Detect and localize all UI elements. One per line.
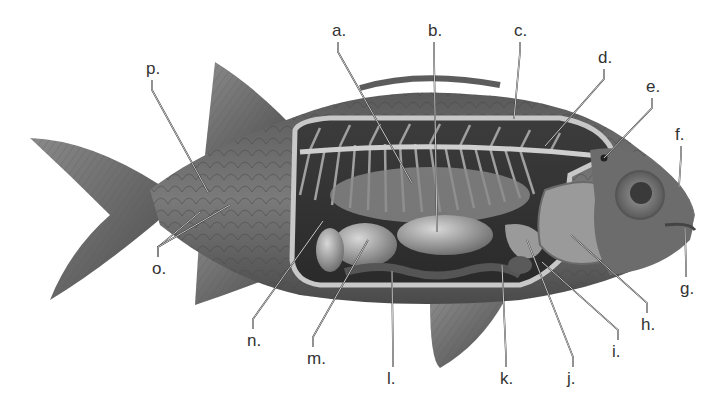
label-m: m.	[307, 349, 326, 368]
label-a: a.	[332, 21, 346, 40]
label-e: e.	[646, 77, 660, 96]
fish-anatomy-diagram: a.b.c.d.e.f.g.h.i.j.k.l.m.n.o.p.	[0, 0, 727, 414]
eye-pupil	[630, 182, 652, 204]
label-g: g.	[680, 279, 694, 298]
fish-head	[590, 148, 695, 275]
label-o: o.	[152, 259, 166, 278]
label-b: b.	[428, 21, 442, 40]
swim-bladder	[330, 167, 530, 223]
label-d: d.	[598, 48, 612, 67]
caudal-fin	[30, 138, 165, 300]
intestine-part	[316, 228, 344, 272]
label-f: f.	[675, 125, 684, 144]
label-n: n.	[247, 331, 261, 350]
label-c: c.	[514, 21, 527, 40]
stomach	[397, 215, 493, 255]
pelvic-fin	[430, 300, 505, 368]
label-j: j.	[566, 369, 576, 388]
label-l: l.	[387, 369, 396, 388]
label-k: k.	[500, 369, 513, 388]
label-h: h.	[641, 315, 655, 334]
label-i: i.	[612, 342, 621, 361]
heart	[508, 256, 532, 274]
label-p: p.	[146, 59, 160, 78]
